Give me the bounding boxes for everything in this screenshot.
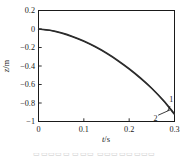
y-tick-label: −0.2 [20,43,35,52]
y-axis-title: z/m [1,59,11,73]
y-tick-label: −0.4 [20,62,35,71]
x-tick-label: 0.2 [124,125,134,134]
y-tick-label: −0.8 [20,99,35,108]
x-tick-label: 0.1 [79,125,89,134]
plot-background [0,0,189,158]
y-tick-label: 0.2 [25,6,35,15]
annotation-label-2: 2 [153,114,157,123]
x-axis-title-unit: /s [104,134,110,144]
annotation-label-1: 1 [169,95,173,104]
y-axis-title-unit: /m [1,59,11,68]
x-tick-label: 0 [36,125,40,134]
figure-container: 0.20−0.2−0.4−0.6−0.8−1 00.10.20.3 12 t/s… [0,0,189,158]
y-tick-label: 0 [31,25,35,34]
caption-fragment: ▭▭▭▭▭ ▭▭▭ ▭▭▭▭▭▭▭▭ [0,149,189,158]
y-tick-label: −1 [26,117,35,126]
y-tick-label: −0.6 [20,80,35,89]
x-axis-title: t/s [102,134,111,144]
x-tick-label: 0.3 [169,125,179,134]
scientific-plot: 0.20−0.2−0.4−0.6−0.8−1 00.10.20.3 12 t/s… [0,0,189,158]
